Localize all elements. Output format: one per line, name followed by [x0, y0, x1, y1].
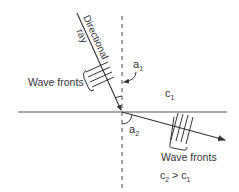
refracted-wave-fronts	[170, 113, 193, 150]
wave-fronts-label-refracted: Wave fronts	[161, 151, 217, 163]
incident-wave-fronts	[83, 62, 114, 91]
directional-ray-label: Directional ray	[70, 13, 110, 66]
diagram-svg: Directional ray Wave fronts Wave fronts …	[0, 0, 239, 192]
a1-pointer-arrow	[124, 72, 136, 82]
wave-fronts-label-incident: Wave fronts	[28, 76, 84, 88]
angle-label-a1: a1	[133, 58, 143, 72]
speed-relation-label: c2 > c1	[160, 169, 190, 183]
angle-arc-a1	[115, 96, 122, 98]
angle-label-a2: a2	[129, 123, 139, 137]
medium1-speed-label: c1	[165, 87, 175, 101]
refraction-diagram: Directional ray Wave fronts Wave fronts …	[0, 0, 239, 192]
